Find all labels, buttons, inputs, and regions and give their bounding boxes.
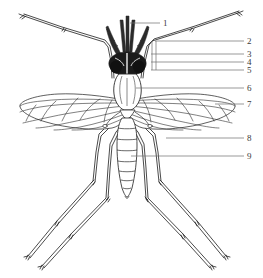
leader-lines-group: [130, 23, 244, 156]
label-number-6: 6: [247, 84, 252, 93]
label-number-9: 9: [247, 152, 252, 161]
midleg-left: [24, 118, 120, 260]
label-number-1: 1: [163, 19, 168, 28]
mosquito-diagram: [0, 0, 263, 278]
label-number-2: 2: [247, 37, 252, 46]
foreleg-left: [19, 14, 114, 78]
midleg-right: [134, 118, 230, 260]
wing-right: [129, 94, 235, 130]
mosquito-anatomy-figure: 123456789: [0, 0, 263, 278]
label-number-7: 7: [247, 100, 252, 109]
abdomen: [117, 118, 137, 198]
head-group: [106, 16, 149, 74]
head-capsule: [109, 52, 146, 74]
wing-left: [20, 94, 126, 130]
proboscis: [126, 16, 129, 58]
leader-tick-marks: [152, 41, 156, 70]
label-number-5: 5: [247, 66, 252, 75]
label-number-8: 8: [247, 134, 252, 143]
